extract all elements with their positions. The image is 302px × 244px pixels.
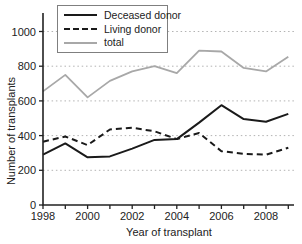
y-axis-title: Number of transplants [5, 77, 17, 185]
series-line-living-donor [43, 128, 288, 155]
series-line-total [43, 51, 288, 98]
x-tick-label-2002: 2002 [120, 210, 144, 222]
x-tick-label-2008: 2008 [254, 210, 278, 222]
x-tick-label-2006: 2006 [209, 210, 233, 222]
legend-label-total: total [104, 36, 124, 49]
legend: Deceased donorLiving donortotal [57, 5, 168, 53]
legend-label-living-donor: Living donor [104, 23, 161, 36]
legend-line-sample-living-donor [64, 28, 97, 30]
legend-item-total: total [64, 36, 163, 49]
x-axis-title: Year of transplant [43, 226, 295, 238]
transplant-line-chart-figure: 0200400600800100019982000200220042006200… [0, 0, 302, 244]
legend-line-sample-total [64, 42, 97, 44]
x-tick-label-2004: 2004 [165, 210, 189, 222]
legend-item-deceased-donor: Deceased donor [64, 9, 163, 22]
y-tick-label-1000: 1000 [12, 26, 36, 38]
y-tick-label-600: 600 [18, 95, 36, 107]
y-tick-label-800: 800 [18, 60, 36, 72]
x-tick-label-2000: 2000 [75, 210, 99, 222]
legend-label-deceased-donor: Deceased donor [104, 9, 181, 22]
y-tick-label-400: 400 [18, 130, 36, 142]
legend-item-living-donor: Living donor [64, 23, 163, 36]
legend-line-sample-deceased-donor [64, 14, 97, 16]
y-tick-label-200: 200 [18, 164, 36, 176]
series-line-deceased-donor [43, 105, 288, 157]
x-tick-label-1998: 1998 [31, 210, 55, 222]
